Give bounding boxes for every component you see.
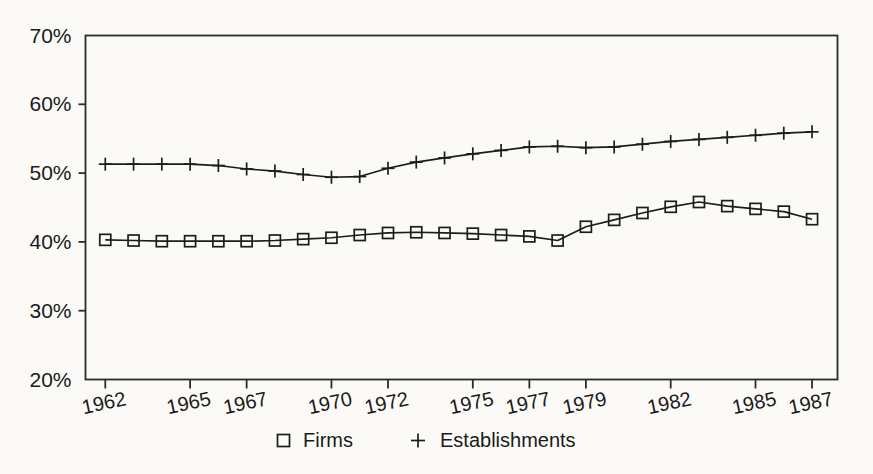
line-chart: 20%30%40%50%60%70% 196219651967197019721… — [0, 0, 873, 474]
y-tick-label: 20% — [29, 368, 71, 391]
legend-label-establishments: Establishments — [440, 429, 576, 451]
y-tick-label: 30% — [29, 299, 71, 322]
y-tick-label: 40% — [29, 230, 71, 253]
legend-label-firms: Firms — [303, 429, 353, 451]
y-tick-label: 70% — [29, 24, 71, 47]
chart-figure: 20%30%40%50%60%70% 196219651967197019721… — [0, 0, 873, 474]
y-tick-label: 60% — [29, 92, 71, 115]
y-tick-label: 50% — [29, 161, 71, 184]
